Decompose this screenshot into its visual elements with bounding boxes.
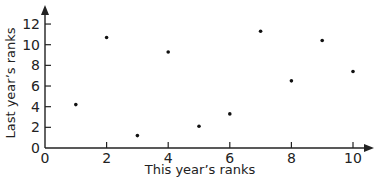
y-ticks: 024681012 <box>22 16 51 156</box>
y-tick-label: 4 <box>31 99 40 115</box>
data-point <box>228 112 232 116</box>
x-tick-label: 8 <box>287 150 296 166</box>
axes <box>41 5 374 152</box>
data-point <box>105 36 109 40</box>
data-point <box>74 103 78 107</box>
y-axis-arrow-icon <box>41 5 49 15</box>
x-axis-arrow-icon <box>364 144 374 152</box>
data-point <box>320 39 324 43</box>
data-point <box>166 50 170 54</box>
y-tick-label: 2 <box>31 119 40 135</box>
x-axis-label: This year’s ranks <box>144 162 256 177</box>
data-points <box>74 29 355 137</box>
y-tick-label: 8 <box>31 57 40 73</box>
data-point <box>259 29 263 33</box>
data-point <box>136 134 140 138</box>
y-tick-label: 12 <box>22 16 40 32</box>
data-point <box>351 70 355 74</box>
x-tick-label: 10 <box>344 150 362 166</box>
data-point <box>197 125 201 129</box>
y-axis-label: Last year’s ranks <box>3 27 18 138</box>
x-tick-label: 2 <box>102 150 111 166</box>
x-tick-label: 0 <box>41 150 50 166</box>
data-point <box>290 79 294 83</box>
y-tick-label: 0 <box>31 140 40 156</box>
y-tick-label: 6 <box>31 78 40 94</box>
y-tick-label: 10 <box>22 37 40 53</box>
scatter-chart: 0246810 024681012 This year’s ranks Last… <box>0 0 383 186</box>
